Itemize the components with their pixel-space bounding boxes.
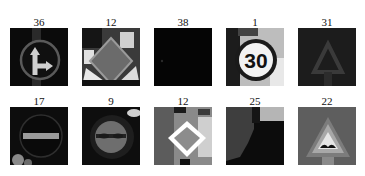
class-label: 25 <box>226 96 284 107</box>
class-label: 38 <box>154 17 212 28</box>
near-black-sign-image <box>154 28 212 86</box>
no-passing-sign-image <box>82 107 140 165</box>
no-entry-sign-image <box>10 107 68 165</box>
class-label: 9 <box>82 96 140 107</box>
go-straight-or-right-sign-image <box>10 28 68 86</box>
class-label: 22 <box>298 96 356 107</box>
bumpy-road-sign-image <box>298 107 356 165</box>
speed-limit-30-sign-image: 30 <box>226 28 284 86</box>
class-label: 17 <box>10 96 68 107</box>
priority-road-dark-sign-image <box>82 28 140 86</box>
class-label: 1 <box>226 17 284 28</box>
svg-text:30: 30 <box>244 49 267 72</box>
class-label: 12 <box>154 96 212 107</box>
priority-road-sign-image <box>154 107 212 165</box>
dark-warning-triangle-sign-image <box>298 28 356 86</box>
class-label: 31 <box>298 17 356 28</box>
road-work-dark-sign-image <box>226 107 284 165</box>
class-label: 12 <box>82 17 140 28</box>
class-label: 36 <box>10 17 68 28</box>
